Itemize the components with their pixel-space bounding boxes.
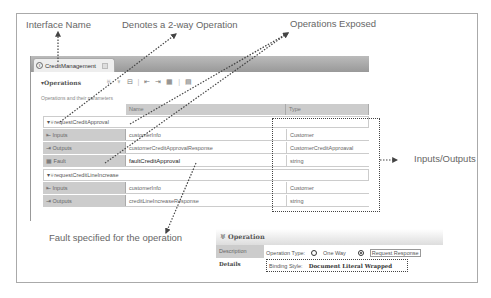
callout-arrows — [0, 0, 491, 298]
